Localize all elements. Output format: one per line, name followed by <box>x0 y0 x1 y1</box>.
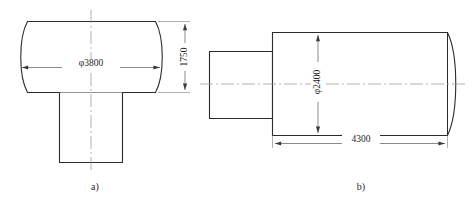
drawing-svg: φ3800 1750 a) φ2400 <box>0 0 472 204</box>
view-b-nozzle <box>210 52 273 119</box>
view-a-height-label: 1750 <box>179 47 189 66</box>
view-b-group: φ2400 4300 b) <box>200 33 466 194</box>
view-a-diameter-label: φ3800 <box>79 58 104 68</box>
view-a-caption: a) <box>91 181 99 193</box>
view-b-caption: b) <box>357 181 365 193</box>
view-a-group: φ3800 1750 a) <box>21 10 192 193</box>
view-b-length-label: 4300 <box>352 134 371 144</box>
view-b-diameter-label: φ2400 <box>312 70 322 95</box>
engineering-drawing-canvas: φ3800 1750 a) φ2400 <box>0 0 472 204</box>
